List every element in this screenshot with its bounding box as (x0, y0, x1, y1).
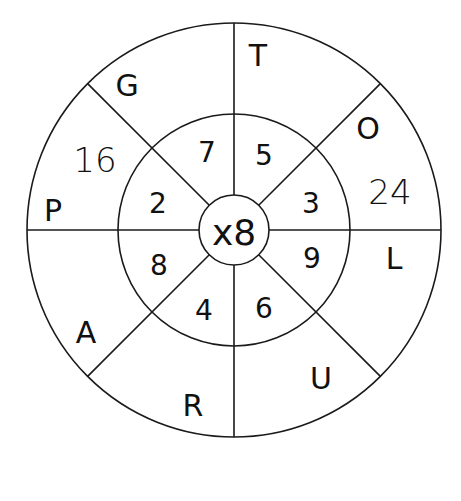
outer-letter: R (183, 388, 204, 423)
outer-letter: A (76, 315, 97, 350)
outer-letter: L (386, 241, 403, 276)
outer-letter: U (310, 361, 332, 396)
inner-number: 3 (302, 187, 320, 220)
outer-letter: P (44, 193, 62, 228)
inner-number: 2 (149, 187, 167, 220)
inner-number: 7 (198, 136, 216, 169)
outer-letter: T (248, 38, 268, 73)
handwritten-answer: 16 (73, 140, 116, 180)
outer-letter: O (356, 111, 380, 146)
handwritten-answer: 24 (368, 172, 411, 212)
outer-letter: G (115, 68, 138, 103)
center-multiplier-label: x8 (212, 212, 256, 253)
inner-number: 4 (195, 294, 213, 327)
inner-number: 9 (303, 242, 321, 275)
inner-number: 5 (255, 139, 273, 172)
multiplication-wheel: x8 7 5 3 9 6 4 8 2 T O L U R A P G 16 24 (0, 0, 461, 501)
inner-number: 6 (255, 292, 273, 325)
spoke-bottom-left (88, 255, 210, 377)
inner-number: 8 (150, 249, 168, 282)
